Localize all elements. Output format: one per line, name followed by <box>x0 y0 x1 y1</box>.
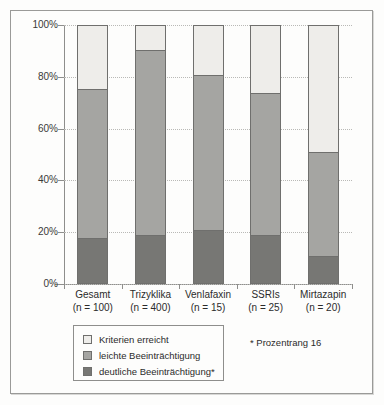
bar-segment[interactable] <box>250 25 281 94</box>
bar-segment[interactable] <box>308 25 339 153</box>
category-name: Gesamt <box>75 289 110 300</box>
legend-swatch <box>83 351 92 360</box>
figure-root: 0%20%40%60%80%100% Gesamt(n = 100)Trizyk… <box>0 0 384 405</box>
y-axis-tick <box>58 232 64 233</box>
bar-segment[interactable] <box>250 236 281 284</box>
y-axis-tick-label: 80% <box>12 72 58 82</box>
bar-segment[interactable] <box>77 90 108 239</box>
bar-segment[interactable] <box>193 231 224 284</box>
category-name: Trizyklika <box>130 289 171 300</box>
legend-label: leichte Beeinträchtigung <box>99 350 200 361</box>
stacked-bar[interactable] <box>77 25 108 284</box>
legend-item[interactable]: leichte Beeinträchtigung <box>83 348 223 363</box>
bar-segment[interactable] <box>193 76 224 231</box>
y-axis-tick <box>58 25 64 26</box>
category-sample-size: (n = 20) <box>281 302 365 315</box>
plot-area <box>64 25 352 284</box>
bar-segment[interactable] <box>135 51 166 236</box>
legend: Kriterien erreichtleichte Beeinträchtigu… <box>73 325 224 381</box>
legend-item[interactable]: deutliche Beeinträchtigung* <box>83 364 223 379</box>
bar-segment[interactable] <box>135 236 166 284</box>
stacked-bar[interactable] <box>308 25 339 284</box>
bar-segment[interactable] <box>77 25 108 90</box>
category-name: Mirtazapin <box>300 289 346 300</box>
y-axis-tick <box>58 129 64 130</box>
y-axis-tick-label: 20% <box>12 227 58 237</box>
legend-swatch <box>83 335 92 344</box>
y-axis-tick <box>58 180 64 181</box>
footnote: * Prozentrang 16 <box>250 337 321 348</box>
legend-item[interactable]: Kriterien erreicht <box>83 332 223 347</box>
gridline <box>64 284 352 285</box>
legend-swatch <box>83 367 92 376</box>
bar-segment[interactable] <box>308 257 339 284</box>
bar-segment[interactable] <box>250 94 281 236</box>
x-axis-category-label: Mirtazapin(n = 20) <box>281 289 365 314</box>
y-axis-tick-label: 40% <box>12 175 58 185</box>
y-axis-tick-label: 100% <box>12 20 58 30</box>
bar-segment[interactable] <box>193 25 224 76</box>
y-axis-tick <box>58 77 64 78</box>
stacked-bar[interactable] <box>250 25 281 284</box>
bar-segment[interactable] <box>77 239 108 284</box>
y-axis-tick-label: 60% <box>12 124 58 134</box>
stacked-bar[interactable] <box>193 25 224 284</box>
bar-segment[interactable] <box>308 153 339 257</box>
legend-label: deutliche Beeinträchtigung* <box>99 366 215 377</box>
stacked-bar[interactable] <box>135 25 166 284</box>
category-name: SSRIs <box>251 289 279 300</box>
bar-segment[interactable] <box>135 25 166 51</box>
legend-label: Kriterien erreicht <box>99 334 169 345</box>
y-axis-tick-label: 0% <box>12 279 58 289</box>
